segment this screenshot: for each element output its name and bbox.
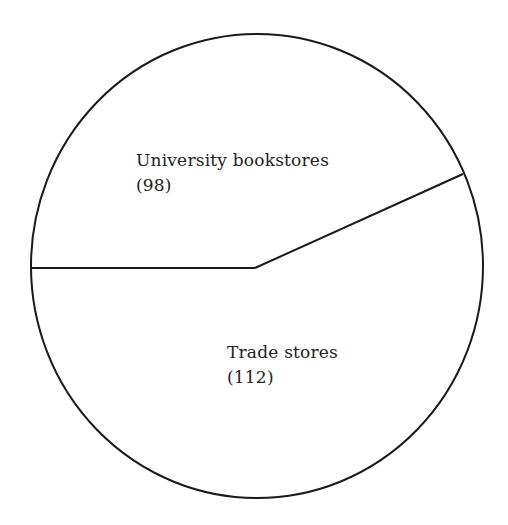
pie-chart (0, 0, 508, 525)
slice-label-university-bookstores: University bookstores (98) (136, 148, 329, 198)
slice-name: Trade stores (227, 340, 338, 365)
slice-label-trade-stores: Trade stores (112) (227, 340, 338, 390)
slice-value: (112) (227, 365, 338, 390)
slice-value: (98) (136, 173, 329, 198)
slice-name: University bookstores (136, 148, 329, 173)
